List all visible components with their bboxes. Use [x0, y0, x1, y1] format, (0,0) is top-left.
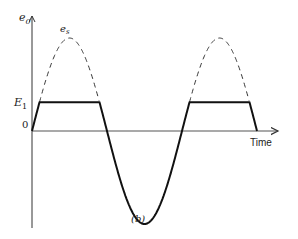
sine-label: es — [60, 23, 70, 36]
sine-dashed-clipped-peak-2 — [190, 38, 250, 102]
clipped-output-waveform — [32, 102, 257, 224]
e1-level-label: E1 — [13, 96, 27, 111]
figure-caption: (b) — [131, 213, 145, 224]
sine-dashed-clipped-peak-1 — [40, 38, 100, 102]
time-axis-label: Time — [250, 137, 272, 148]
origin-label: 0 — [22, 119, 28, 130]
clipper-waveform-diagram: e0 es E1 0 Time (b) — [0, 0, 298, 239]
y-axis-label: e0 — [19, 11, 31, 26]
